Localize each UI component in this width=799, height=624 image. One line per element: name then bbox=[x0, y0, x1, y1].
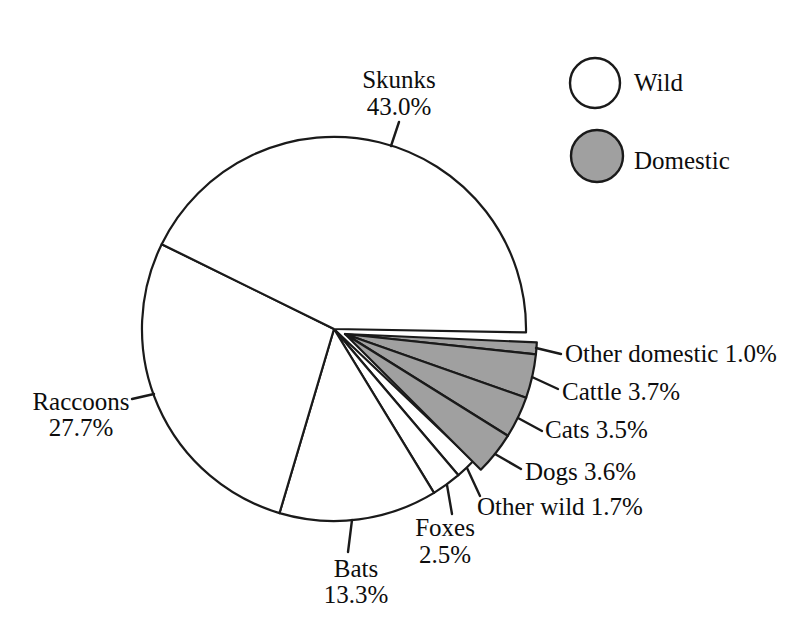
slice-name-label-bats: Bats bbox=[334, 555, 378, 582]
legend-label-wild: Wild bbox=[634, 69, 683, 96]
label-tick-bats bbox=[348, 520, 352, 552]
legend-swatch-domestic bbox=[571, 130, 623, 182]
label-tick-cats bbox=[518, 418, 542, 431]
label-tick-foxes bbox=[447, 485, 452, 514]
slice-label-cattle: Cattle 3.7% bbox=[562, 378, 680, 405]
slice-label-other-domestic: Other domestic 1.0% bbox=[565, 340, 777, 367]
legend-label-domestic: Domestic bbox=[634, 147, 730, 174]
slice-label-other-wild: Other wild 1.7% bbox=[477, 493, 643, 520]
slice-value-label-raccoons: 27.7% bbox=[49, 414, 114, 441]
label-tick-raccoons bbox=[132, 394, 154, 399]
label-tick-other-wild bbox=[467, 468, 480, 496]
label-tick-cattle bbox=[532, 377, 558, 389]
slice-name-label-foxes: Foxes bbox=[415, 514, 475, 541]
slice-label-cats: Cats 3.5% bbox=[545, 416, 648, 443]
legend-swatch-wild bbox=[570, 58, 620, 108]
label-tick-other-domestic bbox=[536, 348, 561, 354]
slice-value-label-bats: 13.3% bbox=[324, 581, 389, 608]
label-tick-skunks bbox=[391, 122, 399, 146]
label-tick-dogs bbox=[495, 454, 521, 469]
slice-value-label-skunks: 43.0% bbox=[367, 93, 432, 120]
slice-label-dogs: Dogs 3.6% bbox=[525, 458, 636, 485]
figure-page: Other domestic 1.0%Cattle 3.7%Cats 3.5%D… bbox=[0, 0, 799, 624]
slice-name-label-raccoons: Raccoons bbox=[32, 388, 129, 415]
pie-chart-svg: Other domestic 1.0%Cattle 3.7%Cats 3.5%D… bbox=[0, 0, 799, 624]
slice-value-label-foxes: 2.5% bbox=[419, 541, 471, 568]
slice-name-label-skunks: Skunks bbox=[362, 66, 436, 93]
